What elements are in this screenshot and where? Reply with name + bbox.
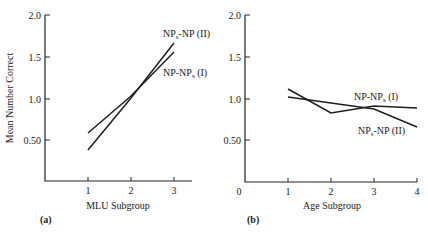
- y-ticks-b: 2.0 1.5 1.0 0.50: [224, 10, 251, 146]
- figure: Mean Number Correct 2.0 1.5 1.0 0.50 1 2…: [0, 0, 428, 236]
- y-tick-label: 2.0: [29, 10, 42, 21]
- x-axis-title-a: MLU Subgroup: [86, 200, 150, 211]
- series-label-b-I: NP-NPs (I): [354, 91, 398, 104]
- x-tick-label: 0: [237, 186, 242, 197]
- x-tick-label: 2: [329, 186, 334, 197]
- panel-label-b: (b): [247, 214, 259, 226]
- y-tick-label: 2.0: [229, 10, 242, 21]
- x-tick-label: 3: [372, 186, 377, 197]
- x-tick-label: 3: [172, 185, 177, 196]
- x-ticks-a: 1 2 3: [86, 177, 177, 196]
- x-tick-label: 4: [415, 186, 420, 197]
- series-line-a-I: [88, 52, 174, 133]
- y-axis: [45, 15, 192, 181]
- x-tick-label: 1: [86, 185, 91, 196]
- y-axis-title: Mean Number Correct: [4, 53, 15, 144]
- series-label-a-I: NP-NPs (I): [163, 67, 207, 80]
- y-tick-label: 1.0: [29, 94, 42, 105]
- y-ticks-a: 2.0 1.5 1.0 0.50: [24, 10, 51, 146]
- y-tick-label: 0.50: [24, 135, 42, 146]
- x-ticks-b: 0 1 2 3 4: [237, 178, 420, 197]
- x-tick-label: 2: [129, 185, 134, 196]
- y-tick-label: 1.5: [229, 52, 242, 63]
- series-label-a-II: NPs-NP (II): [163, 28, 210, 41]
- y-tick-label: 1.0: [229, 94, 242, 105]
- x-axis-title-b: Age Subgroup: [303, 200, 361, 211]
- x-tick-label: 1: [286, 186, 291, 197]
- panel-b: 2.0 1.5 1.0 0.50 0 1 2 3 4 NP-NPs (I) NP…: [224, 10, 420, 226]
- panel-a: Mean Number Correct 2.0 1.5 1.0 0.50 1 2…: [4, 10, 210, 226]
- y-tick-label: 1.5: [29, 52, 42, 63]
- panel-label-a: (a): [40, 214, 52, 226]
- y-tick-label: 0.50: [224, 135, 242, 146]
- series-label-b-II: NPs-NP (II): [358, 125, 405, 138]
